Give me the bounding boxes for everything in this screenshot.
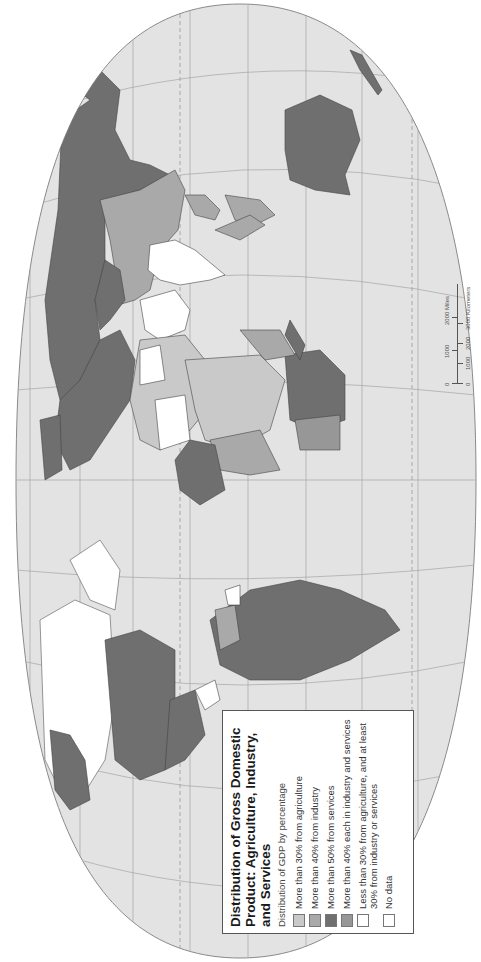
scale-tick xyxy=(458,343,463,344)
legend-subtitle: Distribution of GDP by percentage xyxy=(276,717,287,927)
scale-tick xyxy=(452,317,457,318)
swatch-agriculture xyxy=(293,914,305,927)
region-usa xyxy=(105,630,175,780)
legend-title: Distribution of Gross Domestic Product: … xyxy=(228,717,273,927)
region-algeria xyxy=(155,395,190,450)
scale-km-3000: 3000 Kilometers xyxy=(465,287,471,330)
legend-item-industry: More than 40% from industry xyxy=(309,717,321,927)
scale-tick xyxy=(458,363,463,364)
legend-title-line: Product: Agriculture, Industry, xyxy=(243,717,258,927)
legend-label: More than 30% from agriculture xyxy=(293,776,304,909)
legend-item-services: More than 50% from services xyxy=(325,717,337,927)
legend: Distribution of Gross Domestic Product: … xyxy=(222,710,414,934)
legend-label: Less than 30% from agriculture, and at l… xyxy=(357,717,379,909)
legend-item-no-data: No data xyxy=(383,717,395,927)
legend-label: No data xyxy=(383,876,394,909)
swatch-no-data xyxy=(383,914,395,927)
scale-tick xyxy=(458,383,463,384)
legend-label: More than 40% each in industry and servi… xyxy=(341,719,352,909)
region-south-africa xyxy=(295,415,340,450)
scale-tick xyxy=(458,323,463,324)
scale-km-0: 0 xyxy=(465,383,471,386)
scale-line xyxy=(457,284,458,384)
swatch-services xyxy=(325,914,337,927)
scale-km-1000: 1000 xyxy=(465,357,471,370)
swatch-mixed xyxy=(357,914,369,927)
swatch-industry-services xyxy=(341,914,353,927)
scale-miles-1000: 1000 xyxy=(444,345,450,358)
scale-miles-2000: 2000 Miles xyxy=(444,296,450,325)
scale-bar: 0 1000 2000 Miles 0 1000 2000 3000 Kilom… xyxy=(440,268,476,388)
scale-miles-0: 0 xyxy=(444,383,450,386)
legend-item-industry-services: More than 40% each in industry and servi… xyxy=(341,717,353,927)
scale-km-2000: 2000 xyxy=(465,337,471,350)
legend-title-line: Distribution of Gross Domestic xyxy=(228,717,243,927)
legend-title-line: and Services xyxy=(258,717,273,927)
scale-tick xyxy=(452,350,457,351)
legend-item-mixed: Less than 30% from agriculture, and at l… xyxy=(357,717,379,927)
legend-label: More than 40% from industry xyxy=(309,787,320,909)
swatch-industry xyxy=(309,914,321,927)
legend-label: More than 50% from services xyxy=(325,785,336,909)
legend-item-agriculture: More than 30% from agriculture xyxy=(293,717,305,927)
legend-container: Distribution of Gross Domestic Product: … xyxy=(222,710,414,934)
scale-tick xyxy=(452,383,457,384)
